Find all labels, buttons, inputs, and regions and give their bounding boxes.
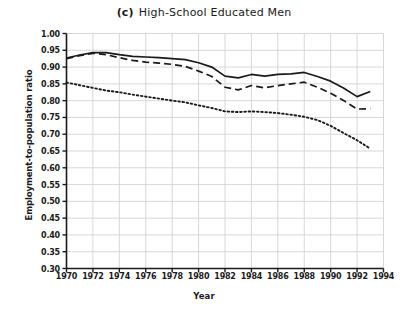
series-line-dotted	[67, 83, 371, 149]
chart-figure: (c)High-School Educated Men Employment-t…	[0, 0, 408, 310]
plot-area	[0, 0, 408, 310]
